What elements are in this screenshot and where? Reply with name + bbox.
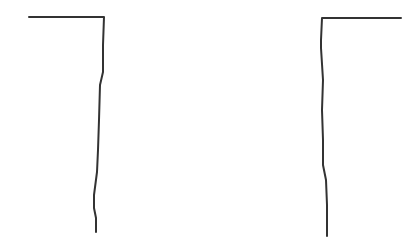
left-hook-line [29, 17, 104, 232]
sketch-svg [0, 0, 414, 248]
right-hook-line [321, 18, 401, 236]
drawing-canvas [0, 0, 414, 248]
